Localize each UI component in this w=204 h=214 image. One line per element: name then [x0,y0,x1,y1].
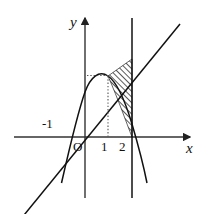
origin-label: O [73,140,82,153]
x-tick-label-one: 1 [101,140,108,153]
parabola-curve [62,74,148,183]
x-tick-label-neg-one: -1 [42,117,53,130]
math-figure: y x O -1 1 2 [0,0,204,214]
x-axis-label: x [186,141,193,156]
y-axis-label: y [70,15,77,30]
graph-canvas [0,0,204,214]
x-tick-label-two: 2 [119,140,126,153]
